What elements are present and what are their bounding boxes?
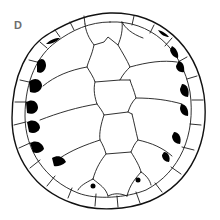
posterior-marginals [93, 172, 141, 196]
vertebral-5 [93, 152, 141, 179]
vertebral-4 [100, 114, 138, 154]
vertebral-3 [94, 80, 136, 115]
vertebral-2 [87, 45, 130, 82]
posterior-dot-right [136, 178, 141, 183]
carapace-drawing [0, 0, 220, 220]
marginal-inner-boundary [25, 22, 191, 197]
left-black-marks [26, 38, 66, 166]
posterior-dot-left [91, 184, 96, 189]
vertebral-scutes [85, 22, 141, 179]
vertebral-1 [85, 22, 122, 45]
right-black-marks [158, 30, 189, 162]
marginal-seams [14, 16, 203, 207]
